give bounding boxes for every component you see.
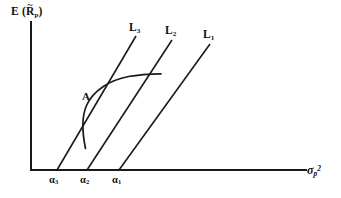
iso-line-label-L3: L3 xyxy=(129,22,140,35)
y-axis-label: E (~Rp) xyxy=(11,6,43,19)
tilde-icon: ~ xyxy=(26,0,35,10)
x-tick-label-alpha2: α2 xyxy=(80,175,89,186)
iso-line-label-L2-symbol: L xyxy=(165,24,173,36)
x-tick-label-alpha1: α1 xyxy=(112,175,121,186)
iso-line-label-L2: L2 xyxy=(165,25,176,38)
iso-line-label-L3-subscript: 3 xyxy=(137,27,141,35)
iso-line-L2 xyxy=(87,40,172,170)
y-axis-label-suffix: ) xyxy=(38,5,42,17)
portfolio-indifference-figure: E (~Rp) σp2 L3 L2 L1 α3 α2 α1 A xyxy=(0,0,341,198)
iso-line-label-L1-symbol: L xyxy=(203,28,211,40)
x-tick-label-alpha3-subscript: 3 xyxy=(55,178,58,185)
efficient-frontier-curve xyxy=(83,74,161,149)
iso-line-label-L3-symbol: L xyxy=(129,21,137,33)
x-axis-label: σp2 xyxy=(307,164,321,177)
y-axis-label-symbol-wrap: ~R xyxy=(26,6,35,18)
x-tick-label-alpha1-subscript: 1 xyxy=(118,178,121,185)
x-axis-label-superscript: 2 xyxy=(317,164,321,173)
iso-line-label-L1-subscript: 1 xyxy=(211,34,215,42)
iso-line-label-L2-subscript: 2 xyxy=(173,30,177,38)
point-label-a: A xyxy=(82,91,90,102)
x-tick-label-alpha3: α3 xyxy=(49,175,58,186)
y-axis-label-prefix: E ( xyxy=(11,5,26,17)
iso-line-label-L1: L1 xyxy=(203,29,214,42)
iso-line-L3 xyxy=(57,36,136,170)
iso-line-L1 xyxy=(119,44,210,170)
x-tick-label-alpha2-subscript: 2 xyxy=(86,178,89,185)
